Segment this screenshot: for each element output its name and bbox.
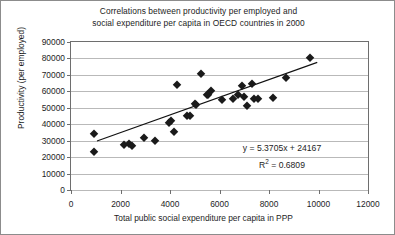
chart-title-line-1: Correlations between productivity per em… bbox=[1, 6, 395, 18]
r2-value: = 0.6809 bbox=[269, 160, 305, 170]
y-tick-label: 10000 bbox=[42, 169, 65, 179]
y-tick-label: 20000 bbox=[42, 152, 65, 162]
y-tick-label: 0 bbox=[60, 185, 65, 195]
y-tick-label: 40000 bbox=[42, 119, 65, 129]
trendline-r-squared: R2 = 0.6809 bbox=[202, 155, 362, 172]
x-tick-label: 2000 bbox=[111, 199, 130, 209]
x-tick-label: 8000 bbox=[260, 199, 279, 209]
x-tick-label: 6000 bbox=[210, 199, 229, 209]
chart-title: Correlations between productivity per em… bbox=[1, 6, 395, 29]
x-tick-label: 4000 bbox=[161, 199, 180, 209]
x-tick bbox=[71, 190, 72, 194]
trendline-annotation: y = 5.3705x + 24167 R2 = 0.6809 bbox=[202, 142, 362, 172]
y-tick-label: 50000 bbox=[42, 103, 65, 113]
y-axis-label: Productivity (per employed) bbox=[16, 0, 26, 158]
y-tick-label: 90000 bbox=[42, 37, 65, 47]
y-tick-label: 60000 bbox=[42, 86, 65, 96]
x-tick bbox=[121, 190, 122, 194]
x-tick-label: 0 bbox=[69, 199, 74, 209]
chart-figure: Correlations between productivity per em… bbox=[0, 0, 395, 235]
y-tick-label: 30000 bbox=[42, 136, 65, 146]
x-tick bbox=[220, 190, 221, 194]
plot-area: 0100002000030000400005000060000700008000… bbox=[70, 41, 369, 191]
y-tick-label: 70000 bbox=[42, 70, 65, 80]
chart-title-line-2: social expenditure per capita in OECD co… bbox=[1, 18, 395, 30]
x-tick-label: 12000 bbox=[356, 199, 379, 209]
x-tick bbox=[170, 190, 171, 194]
x-tick-label: 10000 bbox=[307, 199, 330, 209]
x-tick bbox=[368, 190, 369, 194]
trendline-equation: y = 5.3705x + 24167 bbox=[202, 142, 362, 155]
y-tick-label: 80000 bbox=[42, 53, 65, 63]
x-tick bbox=[269, 190, 270, 194]
x-axis-label: Total public social expenditure per capi… bbox=[31, 213, 376, 223]
x-tick bbox=[319, 190, 320, 194]
